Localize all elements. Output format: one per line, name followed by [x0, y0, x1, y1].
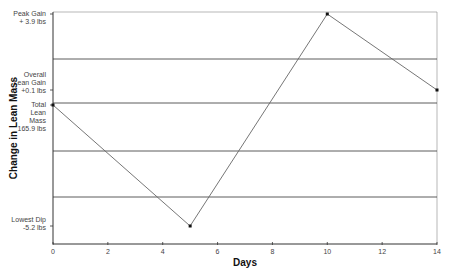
lean-mass-line-chart: 02468101214 Peak Gain+ 3.9 lbsOverallLea… [0, 0, 449, 276]
y-annotation-label: Lowest Dip [11, 216, 46, 224]
y-annotation-label: 165.9 lbs [18, 125, 47, 132]
plot-area: 02468101214 Peak Gain+ 3.9 lbsOverallLea… [11, 10, 441, 255]
y-annotation-label: -5.2 lbs [23, 224, 46, 231]
x-axis-title: Days [233, 257, 257, 268]
y-annotation-label: Lean [30, 109, 46, 116]
x-tick-label: 0 [51, 248, 55, 255]
x-tick-label: 12 [378, 248, 386, 255]
y-annotation-label: Peak Gain [13, 10, 46, 17]
data-point-marker [326, 13, 329, 16]
y-annotation-label: + 3.9 lbs [19, 18, 46, 25]
y-annotation-label: +0.1 lbs [21, 87, 46, 94]
x-tick-label: 6 [216, 248, 220, 255]
y-annotation-label: Total [31, 101, 46, 108]
y-axis-title: Change in Lean Mass [8, 76, 19, 179]
x-tick-label: 2 [106, 248, 110, 255]
data-line [53, 14, 437, 226]
x-tick-label: 10 [323, 248, 331, 255]
data-markers [52, 13, 439, 228]
x-tick-label: 8 [270, 248, 274, 255]
x-tick-label: 14 [433, 248, 441, 255]
x-tick-label: 4 [161, 248, 165, 255]
y-annotation-label: Overall [24, 71, 47, 78]
data-point-marker [52, 104, 55, 107]
data-point-marker [189, 225, 192, 228]
y-annotation-label: Mass [29, 117, 46, 124]
data-point-marker [436, 89, 439, 92]
gridlines [53, 59, 437, 197]
